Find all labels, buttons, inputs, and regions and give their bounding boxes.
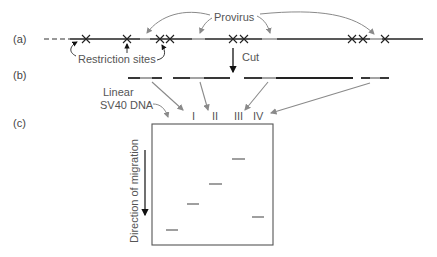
lane-label-1: I — [192, 110, 195, 122]
restriction-sites-label: Restriction sites — [78, 53, 156, 65]
gel-bands — [166, 159, 264, 230]
cut-label: Cut — [242, 51, 259, 63]
fragment-to-lane-arrows — [152, 82, 370, 113]
lane-label-4: IV — [253, 110, 264, 122]
provirus-arrows — [147, 12, 374, 34]
panel-label-b: (b) — [13, 69, 26, 81]
linear-sv40-label-line1: Linear — [103, 86, 134, 98]
panel-label-c: (c) — [13, 117, 26, 129]
lane-label-2: II — [212, 110, 218, 122]
lane-label-3: III — [234, 110, 243, 122]
provirus-label: Provirus — [214, 11, 255, 23]
linear-sv40-arrow — [153, 104, 168, 117]
panel-label-a: (a) — [13, 33, 26, 45]
direction-of-migration-label: Direction of migration — [128, 139, 140, 243]
linear-sv40-label-line2: SV40 DNA — [100, 99, 154, 111]
provirus-restriction-diagram: (a) (b) (c) Provirus Restriction sites — [0, 0, 437, 257]
